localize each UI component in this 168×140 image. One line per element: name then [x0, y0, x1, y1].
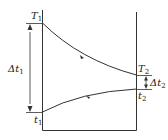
label-delta-t2: Δt2	[149, 77, 166, 90]
delta-t1-dimension	[26, 24, 42, 113]
label-t1: t1	[34, 114, 43, 127]
cold-flow-arrow-icon	[86, 96, 90, 99]
hot-flow-arrow-icon	[80, 55, 84, 59]
label-t2: t2	[138, 90, 147, 103]
frame	[43, 10, 137, 131]
heat-exchanger-diagram: T1 T2 t1 t2 Δt1 Δt2	[0, 0, 168, 140]
arrow-up-icon	[28, 24, 33, 30]
arrow-down-icon	[144, 85, 148, 90]
label-delta-t1: Δt1	[7, 63, 24, 76]
cold-fluid-curve	[43, 89, 137, 112]
label-T1: T1	[31, 10, 42, 23]
arrow-up-icon	[144, 76, 148, 81]
hot-fluid-curve	[43, 23, 137, 75]
label-T2: T2	[138, 63, 149, 76]
arrow-down-icon	[28, 106, 33, 112]
